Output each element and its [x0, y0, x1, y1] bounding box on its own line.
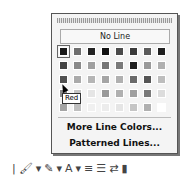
toolbar-item[interactable]: | — [12, 162, 16, 175]
toolbar-item[interactable]: ✎ — [44, 162, 53, 175]
color-swatch[interactable] — [129, 47, 138, 56]
color-swatch[interactable] — [101, 89, 110, 98]
color-swatch[interactable] — [115, 47, 124, 56]
toolbar-item[interactable]: ⇄ — [109, 162, 118, 175]
color-swatch[interactable] — [87, 61, 96, 70]
toolbar-item[interactable]: ▾ — [36, 162, 42, 175]
color-tooltip: Red — [62, 93, 81, 104]
color-swatch[interactable] — [129, 61, 138, 70]
color-swatch[interactable] — [157, 89, 166, 98]
color-swatch[interactable] — [115, 61, 124, 70]
color-swatch[interactable] — [143, 103, 152, 112]
color-swatch[interactable] — [101, 75, 110, 84]
color-swatch[interactable] — [87, 47, 96, 56]
color-swatch[interactable] — [157, 75, 166, 84]
color-swatch[interactable] — [115, 103, 124, 112]
color-swatch[interactable] — [87, 103, 96, 112]
color-swatch[interactable] — [129, 89, 138, 98]
color-swatch[interactable] — [73, 75, 82, 84]
color-swatch[interactable] — [59, 47, 68, 56]
toolbar-item[interactable]: ▾ — [76, 162, 82, 175]
color-swatch[interactable] — [73, 103, 82, 112]
color-swatch[interactable] — [73, 61, 82, 70]
toolbar-item[interactable]: A — [65, 162, 73, 175]
toolbar-item[interactable]: 🖌 — [19, 162, 33, 175]
drawing-toolbar: |🖌▾✎▾A▾≡☰⇄▮ — [12, 160, 187, 176]
color-swatch[interactable] — [101, 103, 110, 112]
color-swatch[interactable] — [87, 75, 96, 84]
patterned-lines-button[interactable]: Patterned Lines... — [52, 138, 177, 148]
color-swatch[interactable] — [143, 61, 152, 70]
color-swatch[interactable] — [115, 89, 124, 98]
color-swatch[interactable] — [157, 61, 166, 70]
color-swatch[interactable] — [157, 47, 166, 56]
color-swatch[interactable] — [115, 75, 124, 84]
color-swatch[interactable] — [73, 47, 82, 56]
color-swatch[interactable] — [129, 75, 138, 84]
color-swatch[interactable] — [157, 103, 166, 112]
toolbar-item[interactable]: ☰ — [96, 162, 106, 175]
toolbar-item[interactable]: ≡ — [84, 162, 93, 175]
toolbar-item[interactable]: ▾ — [56, 162, 62, 175]
color-swatch[interactable] — [143, 75, 152, 84]
color-swatch[interactable] — [129, 103, 138, 112]
toolbar-item[interactable]: ▮ — [121, 162, 127, 175]
color-swatch[interactable] — [59, 61, 68, 70]
color-swatch[interactable] — [87, 89, 96, 98]
more-line-colors-button[interactable]: More Line Colors... — [52, 122, 177, 132]
drag-grip[interactable] — [57, 18, 172, 23]
divider — [58, 117, 171, 118]
line-color-popup: No Line Red More Line Colors... Patterne… — [51, 13, 178, 154]
color-swatch[interactable] — [143, 47, 152, 56]
color-swatch[interactable] — [101, 47, 110, 56]
no-line-button[interactable]: No Line — [60, 29, 170, 44]
color-swatch[interactable] — [59, 103, 68, 112]
color-swatch[interactable] — [101, 61, 110, 70]
color-swatch[interactable] — [143, 89, 152, 98]
